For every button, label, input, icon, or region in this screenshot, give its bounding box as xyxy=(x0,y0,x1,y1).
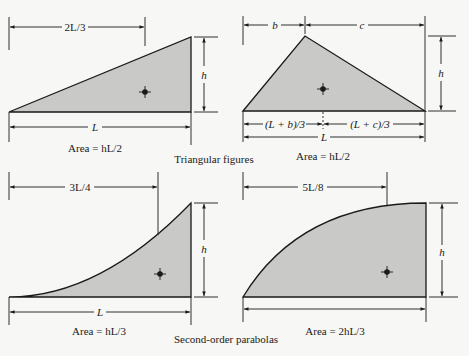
dim-label-base: L xyxy=(96,306,103,318)
general-triangle-shape xyxy=(243,36,425,111)
dim-label-top: 3L/4 xyxy=(70,181,91,193)
dim-label-base: L xyxy=(91,121,98,133)
convex-parabola-shape xyxy=(243,203,426,297)
area-formula: Area = 2hL/3 xyxy=(305,325,365,337)
area-formula: Area = hL/2 xyxy=(68,142,122,154)
dim-label-top: 5L/8 xyxy=(303,181,324,193)
dim-label-height: h xyxy=(439,246,445,258)
dim-label-height: h xyxy=(201,69,207,81)
panel-concave-parabola: 3L/4 h L Area = hL/3 xyxy=(9,172,218,337)
dim-label-height: h xyxy=(438,67,444,79)
dim-label-b: b xyxy=(272,19,278,31)
group-label-parabolas: Second-order parabolas xyxy=(174,333,278,345)
group-label-triangles: Triangular figures xyxy=(174,153,253,165)
panel-convex-parabola: 5L/8 h Area = 2hL/3 xyxy=(243,172,458,337)
right-triangle-shape xyxy=(9,37,191,112)
panel-general-triangle: b c h (L + b)/3 (L + c)/3 L Area = hL/2 xyxy=(243,16,456,162)
dim-label-centroid-right: (L + c)/3 xyxy=(350,118,390,131)
area-formula: Area = hL/3 xyxy=(72,325,126,337)
concave-parabola-shape xyxy=(9,203,191,297)
centroid-diagram: 2L/3 h L Area = hL/2 b c xyxy=(0,0,469,356)
dim-label-base: L xyxy=(320,131,327,143)
dim-label-height: h xyxy=(201,243,207,255)
dim-label-centroid-left: (L + b)/3 xyxy=(265,118,306,131)
area-formula: Area = hL/2 xyxy=(296,150,350,162)
dim-label-c: c xyxy=(360,19,365,31)
dim-label-top: 2L/3 xyxy=(65,21,86,33)
panel-right-triangle: 2L/3 h L Area = hL/2 xyxy=(9,17,218,154)
